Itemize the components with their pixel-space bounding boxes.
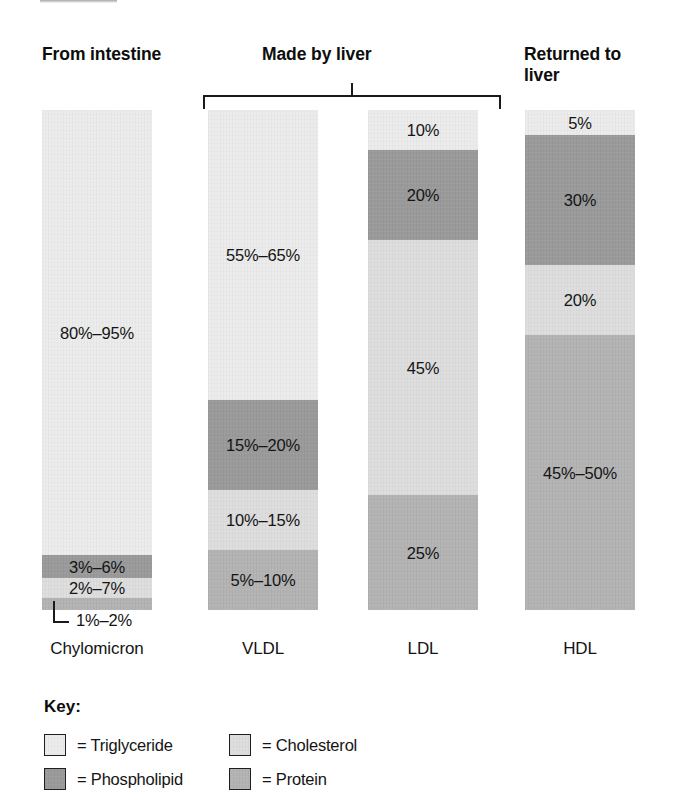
segment-vldl-protein: 5%–10% <box>208 550 318 610</box>
segment-ldl-protein: 25% <box>368 495 478 610</box>
legend-label-phospholipid: = Phospholipid <box>77 769 183 789</box>
bracket-left-tick <box>203 95 205 109</box>
bracket-right-tick <box>499 95 501 109</box>
legend-swatch-protein <box>229 768 251 790</box>
segment-label: 10% <box>407 121 439 139</box>
segment-ldl-phospholipid: 20% <box>368 150 478 240</box>
legend-item-phospholipid: = Phospholipid <box>44 768 229 790</box>
legend-label-protein: = Protein <box>262 769 327 789</box>
legend-swatch-phospholipid <box>44 768 66 790</box>
segment-label: 20% <box>564 291 596 309</box>
segment-hdl-cholesterol: 20% <box>525 265 635 335</box>
segment-label: 5%–10% <box>231 571 296 589</box>
group-heading-returned-to-liver: Returned to liver <box>524 44 654 86</box>
category-label-chylomicron: Chylomicron <box>22 638 172 659</box>
legend-grid: = Triglyceride = Cholesterol = Phospholi… <box>44 728 514 796</box>
segment-ldl-cholesterol: 45% <box>368 240 478 495</box>
segment-chylomicron-phospholipid: 3%–6% <box>42 555 152 578</box>
made-by-liver-bracket <box>203 83 501 109</box>
segment-label: 10%–15% <box>226 511 300 529</box>
segment-ldl-triglyceride: 10% <box>368 110 478 150</box>
category-label-ldl: LDL <box>348 638 498 659</box>
scan-artifact-bar <box>40 0 117 3</box>
stacked-bar-ldl: 10% 20% 45% 25% <box>368 110 478 610</box>
leader-vertical <box>53 601 55 623</box>
segment-hdl-protein: 45%–50% <box>525 335 635 610</box>
segment-label: 25% <box>407 544 439 562</box>
segment-vldl-cholesterol: 10%–15% <box>208 490 318 550</box>
segment-label: 2%–7% <box>69 579 125 597</box>
legend: Key: = Triglyceride = Cholesterol = Phos… <box>44 697 514 796</box>
segment-chylomicron-triglyceride: 80%–95% <box>42 110 152 555</box>
leader-line-chylomicron-protein <box>53 601 77 625</box>
legend-label-triglyceride: = Triglyceride <box>77 735 173 755</box>
segment-label: 30% <box>564 191 596 209</box>
bracket-horizontal-bar <box>203 95 501 97</box>
legend-item-protein: = Protein <box>229 768 414 790</box>
stacked-bar-hdl: 5% 30% 20% 45%–50% <box>525 110 635 610</box>
legend-label-cholesterol: = Cholesterol <box>262 735 357 755</box>
stacked-bar-vldl: 55%–65% 15%–20% 10%–15% 5%–10% <box>208 110 318 610</box>
segment-vldl-triglyceride: 55%–65% <box>208 110 318 400</box>
segment-label: 80%–95% <box>60 324 134 342</box>
stacked-bar-chylomicron: 80%–95% 3%–6% 2%–7% <box>42 110 152 610</box>
leader-horizontal <box>53 621 69 623</box>
segment-hdl-triglyceride: 5% <box>525 110 635 135</box>
segment-label: 45% <box>407 359 439 377</box>
figure-canvas: From intestine Made by liver Returned to… <box>0 0 697 809</box>
segment-label-chylomicron-protein: 1%–2% <box>76 610 132 630</box>
segment-label: 3%–6% <box>69 558 125 576</box>
group-heading-made-by-liver: Made by liver <box>262 44 372 65</box>
segment-chylomicron-cholesterol: 2%–7% <box>42 578 152 598</box>
segment-vldl-phospholipid: 15%–20% <box>208 400 318 490</box>
group-heading-from-intestine: From intestine <box>42 44 161 65</box>
legend-item-cholesterol: = Cholesterol <box>229 734 414 756</box>
category-label-vldl: VLDL <box>188 638 338 659</box>
legend-swatch-triglyceride <box>44 734 66 756</box>
segment-label: 15%–20% <box>226 436 300 454</box>
legend-item-triglyceride: = Triglyceride <box>44 734 229 756</box>
segment-label: 45%–50% <box>543 464 617 482</box>
segment-label: 5% <box>568 114 591 132</box>
segment-hdl-phospholipid: 30% <box>525 135 635 265</box>
segment-label: 55%–65% <box>226 246 300 264</box>
segment-label: 20% <box>407 186 439 204</box>
legend-swatch-cholesterol <box>229 734 251 756</box>
legend-title: Key: <box>44 697 514 717</box>
category-label-hdl: HDL <box>505 638 655 659</box>
